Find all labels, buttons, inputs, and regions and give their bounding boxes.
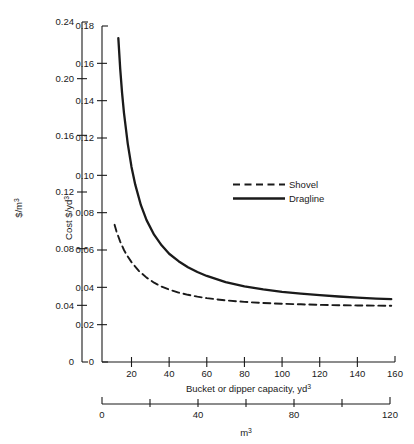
cost-vs-capacity-chart: 00.040.080.120.160.200.24 00.020.040.060…	[0, 0, 414, 444]
primary-x-axis: 20406080100120140160	[102, 356, 403, 379]
svg-text:0.04: 0.04	[76, 282, 95, 293]
svg-text:120: 120	[382, 409, 398, 420]
x-axis-title: Bucket or dipper capacity, yd3	[186, 383, 311, 395]
svg-text:80: 80	[289, 409, 300, 420]
svg-text:160: 160	[387, 368, 403, 379]
svg-text:0.16: 0.16	[56, 130, 75, 141]
svg-text:0.14: 0.14	[76, 95, 95, 106]
chart-legend: ShovelDragline	[233, 179, 324, 204]
secondary-y-axis: 00.040.080.120.160.200.24	[56, 16, 89, 367]
legend-label-dragline: Dragline	[289, 193, 324, 204]
svg-text:0.02: 0.02	[76, 319, 95, 330]
svg-text:20: 20	[126, 368, 137, 379]
chart-figure: 00.040.080.120.160.200.24 00.020.040.060…	[0, 0, 414, 444]
legend-label-shovel: Shovel	[289, 179, 318, 190]
secondary-x-axis: 04080120	[99, 397, 398, 420]
svg-text:0.16: 0.16	[76, 58, 95, 69]
svg-text:140: 140	[349, 368, 365, 379]
svg-text:0: 0	[99, 409, 104, 420]
series-layer	[115, 38, 392, 306]
series-dragline-line	[118, 38, 391, 299]
svg-text:80: 80	[239, 368, 250, 379]
svg-text:0.12: 0.12	[76, 132, 95, 143]
svg-text:0.20: 0.20	[56, 73, 75, 84]
svg-text:0.18: 0.18	[76, 20, 95, 31]
secondary-x-axis-title: m3	[240, 427, 252, 439]
svg-text:0.06: 0.06	[76, 244, 95, 255]
axis-titles: Bucket or dipper capacity, yd3m3Cost $/y…	[13, 196, 312, 438]
svg-text:0.12: 0.12	[56, 186, 75, 197]
svg-text:60: 60	[201, 368, 212, 379]
svg-text:0.08: 0.08	[76, 207, 95, 218]
secondary-y-axis-title: $/m3	[13, 198, 25, 218]
svg-text:40: 40	[193, 409, 204, 420]
svg-text:40: 40	[164, 368, 175, 379]
svg-text:0.08: 0.08	[56, 243, 75, 254]
svg-text:0.10: 0.10	[76, 170, 95, 181]
svg-text:0.24: 0.24	[56, 16, 75, 27]
svg-text:120: 120	[312, 368, 328, 379]
svg-text:0: 0	[69, 356, 74, 367]
svg-text:0: 0	[89, 356, 94, 367]
svg-text:100: 100	[274, 368, 290, 379]
svg-text:0.04: 0.04	[56, 300, 75, 311]
primary-y-axis: 00.020.040.060.080.100.120.140.160.18	[76, 20, 109, 367]
y-axis-title: Cost $/yd3	[63, 196, 75, 240]
